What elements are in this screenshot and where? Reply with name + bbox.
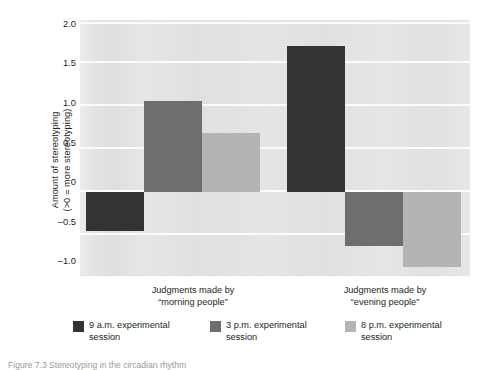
- legend-label-3pm-line-1: 3 p.m. experimental: [226, 320, 307, 330]
- y-axis-title: Amount of stereotyping (>0 = more stereo…: [49, 35, 73, 285]
- bar-morning-3pm: [144, 101, 202, 192]
- gridline-0.5: [80, 147, 470, 149]
- legend-swatch-9am-icon: [73, 321, 84, 332]
- figure-caption: Figure 7.3 Stereotyping in the circadian…: [8, 360, 478, 370]
- bar-evening-8pm: [403, 192, 461, 267]
- legend-label-9am-line-2: session: [89, 332, 120, 342]
- y-tick-label-2.0: 2.0: [36, 19, 76, 29]
- x-group-label-morning: Judgments made by “morning people”: [98, 285, 288, 308]
- y-tick-label-1.0: 1.0: [36, 98, 76, 108]
- x-group-label-evening-line-1: Judgments made by: [290, 285, 480, 297]
- figure-container: Amount of stereotyping (>0 = more stereo…: [0, 0, 483, 370]
- legend-label-3pm: 3 p.m. experimental session: [226, 320, 307, 343]
- x-group-label-morning-line-1: Judgments made by: [98, 285, 288, 297]
- y-tick-label-1.5: 1.5: [36, 58, 76, 68]
- legend-label-8pm-line-1: 8 p.m. experimental: [361, 320, 442, 330]
- legend-label-3pm-line-2: session: [226, 332, 257, 342]
- legend-item-8pm: 8 p.m. experimental session: [345, 320, 483, 343]
- plot-area: [80, 20, 470, 278]
- bar-morning-8pm: [202, 133, 260, 192]
- y-tick-label--0.5: –0.5: [36, 217, 76, 227]
- y-tick-label-0.5: 0.5: [36, 138, 76, 148]
- gridline--1.0: [80, 276, 470, 278]
- legend-label-8pm-line-2: session: [361, 332, 392, 342]
- chart-legend: 9 a.m. experimental session 3 p.m. exper…: [0, 320, 483, 354]
- legend-swatch-3pm-icon: [210, 321, 221, 332]
- y-tick-label--1.0: –1.0: [36, 256, 76, 266]
- gridline-1.5: [80, 61, 470, 63]
- x-group-label-morning-line-2: “morning people”: [98, 297, 288, 309]
- y-axis-title-line-1: Amount of stereotyping: [49, 35, 61, 285]
- bar-evening-3pm: [345, 192, 403, 246]
- x-group-label-evening: Judgments made by “evening people”: [290, 285, 480, 308]
- y-axis-title-line-2: (>0 = more stereotyping): [61, 35, 73, 285]
- gridline-2.0: [80, 22, 470, 24]
- y-tick-label-0: 0: [36, 177, 76, 187]
- gridline-1.0: [80, 104, 470, 106]
- bar-evening-9am: [287, 46, 345, 192]
- legend-label-8pm: 8 p.m. experimental session: [361, 320, 442, 343]
- legend-label-9am: 9 a.m. experimental session: [89, 320, 170, 343]
- bar-morning-9am: [86, 192, 144, 231]
- x-group-label-evening-line-2: “evening people”: [290, 297, 480, 309]
- legend-label-9am-line-1: 9 a.m. experimental: [89, 320, 170, 330]
- legend-item-9am: 9 a.m. experimental session: [73, 320, 213, 343]
- legend-item-3pm: 3 p.m. experimental session: [210, 320, 350, 343]
- legend-swatch-8pm-icon: [345, 321, 356, 332]
